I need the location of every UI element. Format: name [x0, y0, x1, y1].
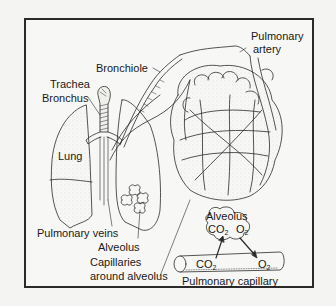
- subscript: 2: [267, 264, 271, 271]
- subscript: 2: [245, 229, 249, 236]
- label-o2-capillary: O2: [258, 258, 270, 274]
- label-pulmonary-artery-line2: artery: [253, 43, 281, 55]
- label-bronchiole: Bronchiole: [96, 62, 148, 74]
- label-lung: Lung: [58, 150, 82, 162]
- bronchus-right: [107, 132, 122, 144]
- label-capillaries-line2: around alveolus: [90, 270, 168, 282]
- co2-text: CO: [196, 258, 213, 270]
- subscript: 2: [213, 264, 217, 271]
- label-pulmonary-capillary: Pulmonary capillary: [182, 275, 278, 287]
- label-co2-alveolus: CO2: [208, 223, 228, 239]
- left-lung: [51, 105, 92, 228]
- label-bronchus: Bronchus: [42, 92, 88, 104]
- label-inset-alveolus: Alveolus: [206, 210, 248, 222]
- o2-text: O: [236, 223, 245, 235]
- label-trachea: Trachea: [50, 78, 90, 90]
- o2-text: O: [258, 258, 267, 270]
- magnified-alveolus: [171, 56, 283, 200]
- right-lung: [116, 100, 161, 231]
- respiratory-illustration: [0, 0, 336, 306]
- subscript: 2: [225, 229, 229, 236]
- label-alveolus: Alveolus: [98, 241, 140, 253]
- alveolar-cluster: [121, 185, 148, 213]
- label-capillaries-line1: Capillaries: [90, 256, 141, 268]
- label-o2-alveolus: O2: [236, 223, 248, 239]
- label-pulmonary-veins: Pulmonary veins: [37, 227, 118, 239]
- co2-text: CO: [208, 223, 225, 235]
- label-pulmonary-artery-line1: Pulmonary: [251, 30, 304, 42]
- label-co2-capillary: CO2: [196, 258, 216, 274]
